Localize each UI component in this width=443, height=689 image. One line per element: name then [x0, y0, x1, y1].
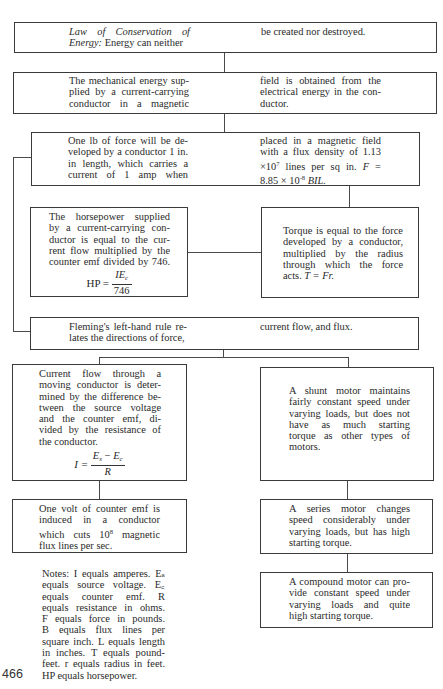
notes-line: equals resistance in ohms.	[42, 602, 165, 613]
fleming-box: Fleming's left-hand rule re- lates the d…	[30, 317, 419, 350]
bracket-bottom	[13, 331, 31, 332]
torque-text: Torque is equal to the force developed b…	[283, 225, 403, 281]
notes-line: HP equals horsepower.	[42, 670, 165, 681]
counter-emf-box: One volt of counter emf is induced in a …	[12, 499, 187, 553]
mechanical-energy-box: The mechanical energy sup- plied by a cu…	[13, 72, 437, 114]
page-number: 466	[2, 667, 23, 681]
notes-line: Notes: I equals amperes. Eₛ	[42, 568, 165, 579]
notes-line: square inch. L equals length	[42, 636, 165, 647]
connector-force-torque	[349, 185, 350, 207]
notes-block: Notes: I equals amperes. Eₛ equals sourc…	[42, 568, 165, 681]
mechanical-energy-right-text: field is obtained from the electrical en…	[260, 75, 381, 109]
torque-box: Torque is equal to the force developed b…	[261, 207, 419, 298]
current-formula: I = Es − Ec R	[13, 450, 186, 477]
fleming-right-text: current flow, and flux.	[260, 321, 381, 332]
bracket-top	[13, 157, 31, 158]
conservation-left-text: Law of Conservation of Energy: Energy ca…	[69, 26, 190, 49]
notes-line: F equals force in pounds.	[42, 613, 165, 624]
mechanical-energy-left-text: The mechanical energy sup- plied by a cu…	[69, 75, 189, 109]
notes-line: B equals flux lines per	[42, 624, 165, 635]
horsepower-box: The horsepower supplied by a current-car…	[30, 207, 188, 297]
conservation-title: Law of Conservation of	[69, 26, 190, 37]
counter-emf-text: One volt of counter emf is induced in a …	[39, 503, 160, 551]
connector-shunt-series	[347, 480, 348, 499]
horsepower-formula: HP = IEc 746	[31, 269, 187, 296]
notes-line: feet. r equals radius in feet.	[42, 658, 165, 669]
shunt-motor-text: A shunt motor maintains fairly constant …	[289, 385, 410, 453]
connector-series-compound	[347, 553, 348, 572]
notes-line: equals source voltage. E꜀	[42, 579, 165, 590]
notes-line: equals counter emf. R	[42, 591, 165, 602]
connector-branch-left	[99, 357, 100, 364]
bracket-vertical	[13, 157, 14, 332]
connector-branch-right	[348, 357, 349, 367]
horsepower-text: The horsepower supplied by a current-car…	[49, 211, 170, 267]
connector-current-emf	[99, 480, 100, 499]
conservation-right-text: be created nor destroyed.	[261, 26, 411, 37]
compound-motor-box: A compound motor can pro- vide constant …	[260, 572, 433, 628]
series-motor-text: A series motor changes speed considerabl…	[289, 503, 410, 548]
force-right-text: placed in a magnetic field with a flux d…	[260, 135, 381, 186]
connector-fleming-branch	[99, 357, 349, 358]
series-motor-box: A series motor changes speed considerabl…	[260, 499, 433, 554]
bil-formula: BIL.	[305, 175, 326, 186]
torque-formula: T = Fr.	[304, 270, 334, 281]
force-left-text: One lb of force will be de- veloped by a…	[68, 135, 188, 180]
current-flow-text: Current flow through a moving conductor …	[39, 368, 161, 447]
energy-label: Energy:	[69, 37, 102, 48]
compound-motor-text: A compound motor can pro- vide constant …	[289, 576, 410, 621]
conservation-law-box: Law of Conservation of Energy: Energy ca…	[14, 22, 437, 53]
connector-2-3	[224, 113, 225, 132]
connector-1-2	[224, 52, 225, 72]
fleming-left-text: Fleming's left-hand rule re- lates the d…	[69, 321, 187, 344]
current-flow-box: Current flow through a moving conductor …	[12, 364, 187, 481]
shunt-motor-box: A shunt motor maintains fairly constant …	[260, 367, 434, 481]
notes-line: in inches. T equals pound-	[42, 647, 165, 658]
connector-hp-torque	[188, 252, 261, 253]
force-box: One lb of force will be de- veloped by a…	[31, 132, 420, 186]
